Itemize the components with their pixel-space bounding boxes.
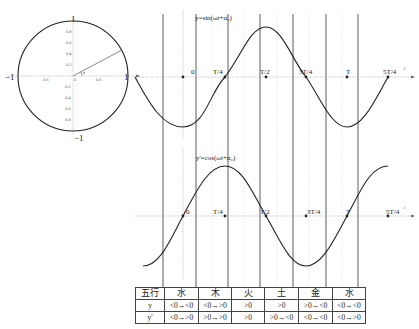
y-tick: 0.6	[66, 41, 72, 45]
five-elements-table: 五行 水 木 火 土 金 水 y <0→<0 <0→>0 >0 >0 >0→<0…	[135, 287, 366, 324]
table-cell: <0→>0	[333, 312, 366, 324]
t-tick: T/4	[213, 208, 223, 216]
unit-circle: α −1 1 1 −1 -0.5 0 0.5 0.8 0.6 0.4 0.2 -…	[5, 14, 140, 143]
sin-chart: y=sin(ωt+α₀) 0 T/4 T/2 3T/4 T 5T/4 t	[135, 10, 415, 140]
table-header-cell: 水	[333, 288, 366, 300]
t-axis-label: t	[404, 206, 406, 210]
y-tick: 0.8	[66, 30, 72, 34]
t-tick: T/2	[260, 208, 270, 216]
t-tick: T/4	[213, 68, 223, 76]
cos-chart: y'=cos(ωt+α₀) 0 T/4 T/2 3T/4 T 5T/4 t	[135, 148, 415, 280]
t-tick: 0	[191, 68, 195, 76]
table-cell: <0→<0	[333, 300, 366, 312]
unit-circle-label-top: 1	[71, 14, 76, 24]
table-cell: >0	[265, 300, 299, 312]
t-tick: 5T/4	[383, 68, 397, 76]
table-cell: >0	[232, 300, 265, 312]
table-cell: >0→<0	[265, 312, 299, 324]
table-header-cell: 金	[299, 288, 333, 300]
unit-circle-label-left: −1	[5, 72, 15, 82]
table-header-row: 五行 水 木 火 土 金 水	[136, 288, 366, 300]
table-cell: >0→>0	[199, 312, 232, 324]
table-row: y <0→<0 <0→>0 >0 >0 >0→<0 <0→<0	[136, 300, 366, 312]
table-cell: <0→>0	[165, 312, 199, 324]
table-cell: >0→<0	[299, 300, 333, 312]
t-tick: 3T/4	[299, 68, 313, 76]
quarter-guides	[212, 14, 342, 287]
table-cell: >0	[232, 312, 265, 324]
table-row: y' <0→>0 >0→>0 >0 >0→<0 <0→<0 <0→>0	[136, 312, 366, 324]
y-tick: -0.2	[64, 85, 71, 89]
sin-title: y=sin(ωt+α₀)	[195, 14, 233, 22]
table-cell: <0→<0	[165, 300, 199, 312]
t-tick: T	[346, 68, 351, 76]
table-header-cell: 土	[265, 288, 299, 300]
table-header-cell: 木	[199, 288, 232, 300]
table-header-cell: 水	[165, 288, 199, 300]
unit-circle-label-bottom: −1	[74, 133, 84, 143]
x-tick: 0	[74, 78, 76, 82]
t-tick: T/2	[260, 68, 270, 76]
table-cell: <0→>0	[199, 300, 232, 312]
y-tick: 0.4	[66, 52, 72, 56]
table-header-cell: 火	[232, 288, 265, 300]
cos-title: y'=cos(ωt+α₀)	[196, 154, 236, 162]
table-header-cell: 五行	[136, 288, 165, 300]
table-cell: y	[136, 300, 165, 312]
y-tick: 0.2	[66, 63, 72, 67]
t-tick: 0	[186, 208, 190, 216]
phase-dividers	[163, 14, 358, 287]
angle-label: α	[83, 71, 86, 75]
table-cell: y'	[136, 312, 165, 324]
unit-circle-label-right: 1	[124, 72, 129, 82]
diagram-canvas: α −1 1 1 −1 -0.5 0 0.5 0.8 0.6 0.4 0.2 -…	[0, 0, 419, 329]
x-tick: 0.5	[96, 78, 102, 82]
y-tick: -0.4	[64, 96, 72, 100]
t-tick: 3T/4	[307, 208, 321, 216]
y-tick: -0.8	[64, 118, 71, 122]
x-tick: -0.5	[42, 78, 49, 82]
y-tick: -0.6	[64, 107, 71, 111]
t-axis-label: t	[404, 67, 406, 71]
table-cell: <0→<0	[299, 312, 333, 324]
